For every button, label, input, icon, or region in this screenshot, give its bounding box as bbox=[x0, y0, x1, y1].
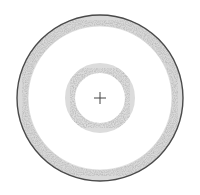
crosshair-icon bbox=[94, 92, 106, 104]
concentric-rings-diagram bbox=[0, 0, 200, 195]
